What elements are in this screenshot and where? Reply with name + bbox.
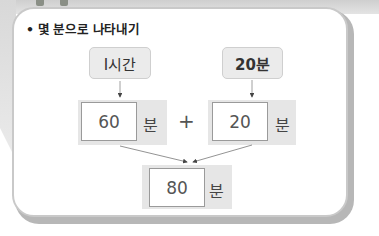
left-unit-label: 분: [143, 112, 158, 136]
result-box: 80: [149, 168, 205, 207]
figure-foot-icon: [36, 0, 44, 6]
figure-foot-icon: [60, 0, 68, 6]
right-unit-label: 분: [275, 112, 290, 136]
hour-box: I시간: [89, 47, 151, 79]
right-answer-box: 20: [212, 102, 268, 141]
section-title: • 몇 분으로 나타내기: [26, 19, 139, 38]
left-answer-box: 60: [81, 102, 137, 141]
minutes-box: 20분: [222, 47, 283, 79]
plus-sign: +: [178, 109, 195, 133]
result-unit-label: 분: [209, 178, 224, 202]
